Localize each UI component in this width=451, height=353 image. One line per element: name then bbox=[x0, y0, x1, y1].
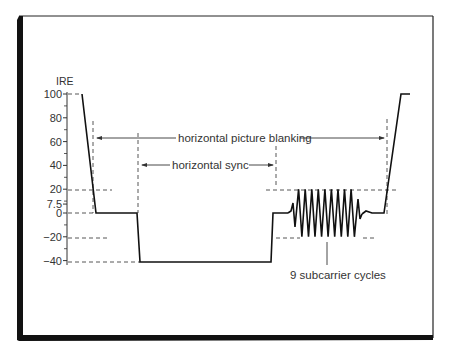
label-horizontal-picture-blanking: horizontal picture blanking bbox=[178, 132, 312, 144]
ntsc-horizontal-blanking-diagram: IRE 100806040207.50−20−40 horizontal pic… bbox=[0, 0, 451, 353]
y-axis-title: IRE bbox=[56, 75, 74, 87]
figure-frame bbox=[17, 16, 433, 341]
y-tick-label: −40 bbox=[43, 255, 62, 267]
y-tick-label: 100 bbox=[44, 88, 62, 100]
arrow-left-icon bbox=[141, 163, 147, 167]
annotation-burst: 9 subcarrier cycles bbox=[290, 242, 386, 281]
y-tick-label: 20 bbox=[50, 183, 62, 195]
y-tick-label: −20 bbox=[43, 231, 62, 243]
y-tick-label: 0 bbox=[56, 207, 62, 219]
y-tick-label: 60 bbox=[50, 136, 62, 148]
waveform bbox=[82, 94, 410, 262]
arrow-right-icon bbox=[268, 163, 274, 167]
label-subcarrier-cycles: 9 subcarrier cycles bbox=[290, 269, 386, 281]
label-horizontal-sync: horizontal sync bbox=[172, 159, 249, 171]
arrow-left-icon bbox=[96, 136, 102, 140]
y-tick-label: 40 bbox=[50, 159, 62, 171]
annotation-blanking: horizontal picture blanking bbox=[96, 132, 385, 144]
annotation-sync: horizontal sync bbox=[141, 159, 274, 171]
y-tick-label: 80 bbox=[50, 112, 62, 124]
reference-lines bbox=[68, 94, 396, 262]
arrow-right-icon bbox=[379, 136, 385, 140]
